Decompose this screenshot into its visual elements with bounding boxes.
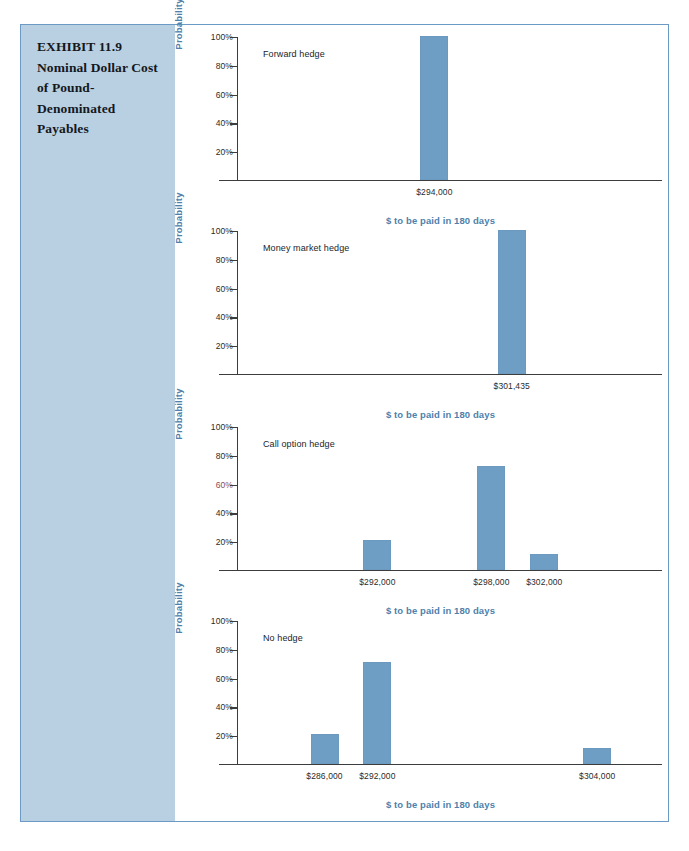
y-axis-tick xyxy=(230,66,237,67)
exhibit-title: Nominal Dollar Cost of Pound-Denominated… xyxy=(37,60,158,137)
x-tick-label: $294,000 xyxy=(416,187,452,197)
chart-1: Probability20%40%60%80%100%Money market … xyxy=(175,225,668,417)
y-tick-label: 80% xyxy=(193,255,233,265)
y-axis-tick xyxy=(230,152,237,153)
chart-2: Probability20%40%60%80%100%Call option h… xyxy=(175,421,668,613)
y-tick-label: 100% xyxy=(193,616,233,626)
y-tick-label: 80% xyxy=(193,645,233,655)
y-axis-tick xyxy=(230,427,237,428)
bar xyxy=(498,230,526,374)
y-axis-tick xyxy=(230,542,237,543)
bar xyxy=(477,466,505,570)
y-axis-title: Probability xyxy=(173,173,184,263)
x-tick-label: $292,000 xyxy=(359,577,395,587)
y-tick-label: 20% xyxy=(193,537,233,547)
exhibit-caption-panel: EXHIBIT 11.9 Nominal Dollar Cost of Poun… xyxy=(21,25,175,821)
y-tick-label: 80% xyxy=(193,61,233,71)
y-tick-label: 100% xyxy=(193,226,233,236)
y-axis-title: Probability xyxy=(173,0,184,69)
series-label: No hedge xyxy=(263,633,303,643)
y-tick-label: 40% xyxy=(193,508,233,518)
plot-area: Call option hedge xyxy=(237,427,644,571)
y-tick-label: 60% xyxy=(193,480,233,490)
y-tick-label: 40% xyxy=(193,118,233,128)
y-axis-tick xyxy=(230,123,237,124)
y-axis-tick xyxy=(230,37,237,38)
exhibit-number: EXHIBIT 11.9 xyxy=(37,37,165,58)
y-tick-label: 100% xyxy=(193,32,233,42)
y-tick-labels: 20%40%60%80%100% xyxy=(193,615,233,765)
y-tick-label: 40% xyxy=(193,702,233,712)
bar xyxy=(363,662,391,764)
y-axis-tick xyxy=(230,736,237,737)
y-axis-line xyxy=(237,37,238,181)
bar xyxy=(311,734,339,764)
y-tick-label: 20% xyxy=(193,341,233,351)
y-axis-tick xyxy=(230,317,237,318)
bar xyxy=(420,36,448,180)
y-tick-labels: 20%40%60%80%100% xyxy=(193,31,233,181)
x-axis-title: $ to be paid in 180 days xyxy=(237,799,644,810)
x-tick-label: $302,000 xyxy=(526,577,562,587)
exhibit-frame: EXHIBIT 11.9 Nominal Dollar Cost of Poun… xyxy=(20,24,669,822)
y-axis-tick xyxy=(230,260,237,261)
y-tick-label: 60% xyxy=(193,284,233,294)
bar xyxy=(583,748,611,764)
plot-area: Money market hedge xyxy=(237,231,644,375)
y-tick-labels: 20%40%60%80%100% xyxy=(193,421,233,571)
y-tick-label: 60% xyxy=(193,674,233,684)
y-axis-tick xyxy=(230,513,237,514)
y-axis-tick xyxy=(230,95,237,96)
y-axis-title: Probability xyxy=(173,563,184,653)
y-tick-label: 20% xyxy=(193,731,233,741)
x-tick-label: $301,435 xyxy=(494,381,530,391)
y-tick-label: 80% xyxy=(193,451,233,461)
y-axis-line xyxy=(237,231,238,375)
x-tick-label: $304,000 xyxy=(579,771,615,781)
y-tick-labels: 20%40%60%80%100% xyxy=(193,225,233,375)
series-label: Call option hedge xyxy=(263,439,335,449)
y-axis-tick xyxy=(230,289,237,290)
y-tick-label: 20% xyxy=(193,147,233,157)
y-tick-label: 40% xyxy=(193,312,233,322)
series-label: Money market hedge xyxy=(263,243,349,253)
chart-3: Probability20%40%60%80%100%No hedge$ to … xyxy=(175,615,668,807)
exhibit-caption: EXHIBIT 11.9 Nominal Dollar Cost of Poun… xyxy=(37,37,165,140)
y-axis-line xyxy=(237,427,238,571)
plot-area: No hedge xyxy=(237,621,644,765)
x-axis-title: $ to be paid in 180 days xyxy=(237,409,644,420)
chart-0: Probability20%40%60%80%100%Forward hedge… xyxy=(175,31,668,223)
x-axis-line xyxy=(219,570,662,571)
x-tick-label: $298,000 xyxy=(473,577,509,587)
bar xyxy=(363,540,391,570)
series-label: Forward hedge xyxy=(263,49,325,59)
y-axis-tick xyxy=(230,679,237,680)
y-axis-title: Probability xyxy=(173,369,184,459)
x-tick-label: $286,000 xyxy=(306,771,342,781)
y-axis-tick xyxy=(230,621,237,622)
y-axis-tick xyxy=(230,650,237,651)
y-tick-label: 60% xyxy=(193,90,233,100)
y-axis-tick xyxy=(230,456,237,457)
x-tick-label: $292,000 xyxy=(359,771,395,781)
charts-column: Probability20%40%60%80%100%Forward hedge… xyxy=(175,25,668,821)
y-tick-label: 100% xyxy=(193,422,233,432)
bar xyxy=(530,554,558,570)
y-axis-tick xyxy=(230,485,237,486)
y-axis-tick xyxy=(230,346,237,347)
y-axis-tick xyxy=(230,707,237,708)
y-axis-line xyxy=(237,621,238,765)
y-axis-tick xyxy=(230,231,237,232)
x-axis-line xyxy=(219,374,662,375)
plot-area: Forward hedge xyxy=(237,37,644,181)
